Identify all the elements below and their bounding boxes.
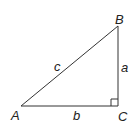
vertex-label-a: A <box>10 108 20 123</box>
side-label-a: a <box>121 60 128 75</box>
right-angle-marker <box>111 99 118 106</box>
side-label-b: b <box>73 108 80 123</box>
vertex-label-b: B <box>115 12 124 27</box>
triangle-shape <box>21 26 118 106</box>
vertex-label-c: C <box>118 109 128 124</box>
right-triangle-diagram: B A C a b c <box>0 0 137 128</box>
side-label-c: c <box>54 59 61 74</box>
